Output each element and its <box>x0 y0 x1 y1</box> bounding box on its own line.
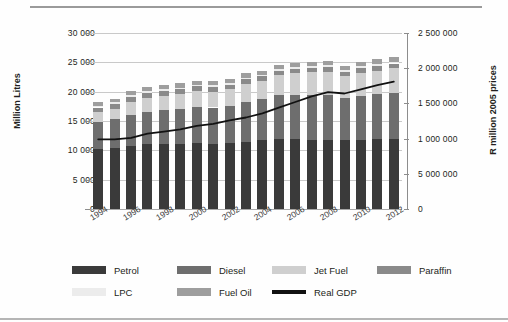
legend-item[interactable]: Jet Fuel <box>272 265 348 276</box>
y-tick-label-right: 1 000 000 <box>418 134 458 144</box>
legend-color-swatch <box>177 266 211 274</box>
real-gdp-line <box>90 33 402 209</box>
legend-row: LPCFuel OilReal GDP <box>72 281 452 303</box>
legend-label: LPC <box>114 287 132 298</box>
legend-label: Jet Fuel <box>314 265 348 276</box>
top-divider-rule <box>30 6 482 8</box>
legend-row: PetrolDieselJet FuelParaffin <box>72 259 452 281</box>
legend-color-swatch <box>377 266 411 274</box>
legend-label: Paraffin <box>419 265 452 276</box>
legend-color-swatch <box>177 288 211 296</box>
plot-area <box>90 33 402 209</box>
right-axis-line <box>407 33 408 209</box>
y-axis-label-right: R million 2005 prices <box>488 35 498 185</box>
y-tick-label-right: 2 500 000 <box>418 28 458 38</box>
chart-legend: PetrolDieselJet FuelParaffinLPCFuel OilR… <box>72 259 452 303</box>
y-axis-label-left: Million Litres <box>12 41 22 161</box>
legend-label: Real GDP <box>314 287 357 298</box>
chart-figure: Million Litres R million 2005 prices 05 … <box>0 0 508 322</box>
legend-item[interactable]: Real GDP <box>272 287 357 298</box>
legend-item[interactable]: LPC <box>72 287 132 298</box>
legend-item[interactable]: Petrol <box>72 265 139 276</box>
y-tick-label-right: 5 000 000 <box>418 169 458 179</box>
legend-color-swatch <box>272 266 306 274</box>
legend-item[interactable]: Fuel Oil <box>177 287 252 298</box>
y-tick-label-right: 2 000 000 <box>418 63 458 73</box>
y-tick-mark-right <box>404 209 409 210</box>
legend-label: Fuel Oil <box>219 287 252 298</box>
bottom-divider-rule <box>0 318 508 320</box>
legend-item[interactable]: Paraffin <box>377 265 452 276</box>
y-tick-label-right: 0 <box>418 204 423 214</box>
y-tick-label-right: 1 500 000 <box>418 98 458 108</box>
legend-color-swatch <box>72 266 106 274</box>
legend-label: Petrol <box>114 265 139 276</box>
legend-color-swatch <box>72 288 106 296</box>
legend-line-swatch <box>272 290 306 294</box>
legend-item[interactable]: Diesel <box>177 265 245 276</box>
legend-label: Diesel <box>219 265 245 276</box>
